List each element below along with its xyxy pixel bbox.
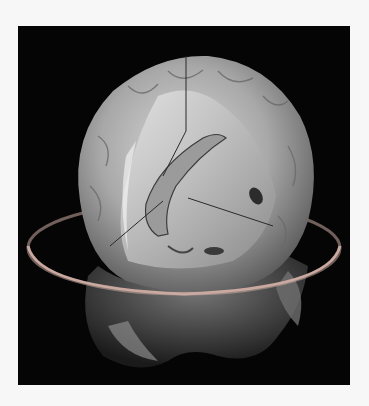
brain-render-image: [18, 26, 350, 385]
brain-render-svg: [18, 26, 350, 385]
sulcus-spot: [204, 247, 224, 255]
